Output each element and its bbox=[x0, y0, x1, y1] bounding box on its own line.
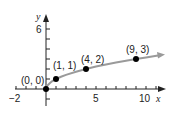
y-axis-label: y bbox=[35, 11, 41, 22]
x-tick-label-10: 10 bbox=[139, 93, 151, 104]
sqrt-graph: −2 5 10 x 6 y (0, 0) (1, 1) (4, 2) (9, 3… bbox=[0, 0, 171, 116]
y-axis-arrow-icon bbox=[43, 14, 49, 22]
point-9-3 bbox=[133, 56, 139, 62]
point-4-2 bbox=[83, 66, 89, 72]
point-0-0 bbox=[43, 86, 49, 92]
curve-arrow-icon bbox=[157, 52, 165, 59]
x-tick-label-5: 5 bbox=[93, 93, 99, 104]
y-tick-label-6: 6 bbox=[36, 24, 42, 35]
x-axis-arrow-icon bbox=[158, 86, 166, 92]
label-9-3: (9, 3) bbox=[126, 44, 149, 55]
label-0-0: (0, 0) bbox=[21, 75, 44, 86]
point-1-1 bbox=[53, 76, 59, 82]
x-axis-label: x bbox=[155, 93, 161, 104]
label-1-1: (1, 1) bbox=[53, 60, 76, 71]
x-tick-label-neg2: −2 bbox=[9, 93, 21, 104]
label-4-2: (4, 2) bbox=[81, 54, 104, 65]
